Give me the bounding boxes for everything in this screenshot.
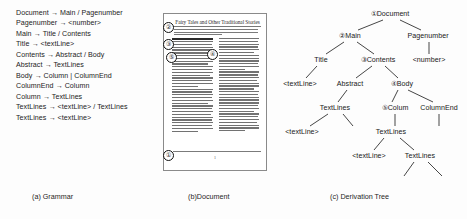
tree-node: ⑤Colum — [382, 104, 409, 112]
document-abstract — [174, 29, 261, 35]
tree-node: <textLine> — [285, 128, 319, 136]
text-line — [219, 66, 260, 67]
text-line — [219, 60, 260, 61]
text-line — [219, 130, 245, 131]
abstract-line — [174, 34, 222, 35]
text-line — [172, 72, 213, 73]
tree-node: TextLines — [376, 128, 406, 136]
text-line — [172, 80, 212, 81]
text-line — [172, 44, 212, 45]
text-line — [172, 128, 213, 129]
text-line — [172, 119, 212, 120]
text-line — [172, 131, 198, 132]
text-line — [219, 41, 259, 42]
text-line — [219, 119, 260, 120]
text-line — [172, 47, 213, 48]
text-line — [219, 83, 260, 84]
text-line — [172, 69, 212, 70]
text-line — [219, 122, 258, 123]
text-line — [172, 111, 213, 112]
tree-node: Title — [314, 56, 327, 64]
abstract-line — [174, 32, 258, 33]
text-line — [219, 94, 259, 95]
text-line — [219, 125, 260, 126]
text-line — [219, 97, 260, 98]
text-line — [172, 125, 212, 126]
tree-node: Abstract — [337, 80, 363, 88]
marker-4-body: ④ — [207, 49, 218, 60]
text-line — [172, 86, 198, 87]
text-line — [172, 66, 213, 67]
title-rule — [173, 26, 261, 27]
text-line — [172, 49, 211, 50]
tree-node: ④Body — [391, 80, 413, 88]
derivation-tree: ①Document②MainPagenumberTitle③Contents<n… — [278, 4, 467, 180]
text-line — [172, 114, 211, 115]
text-line — [172, 38, 213, 40]
text-line — [219, 85, 259, 86]
text-line — [172, 61, 213, 62]
text-line — [172, 105, 213, 106]
text-line — [219, 105, 258, 106]
text-line — [219, 77, 260, 78]
text-line — [172, 91, 212, 92]
text-line — [172, 103, 208, 104]
text-line — [172, 41, 213, 42]
text-line — [219, 127, 259, 128]
tree-node: TextLines — [320, 104, 350, 112]
grammar-rule: Document → Main / Pagenumber — [16, 8, 156, 18]
text-line — [172, 75, 210, 76]
text-line — [172, 89, 213, 90]
document-content: Fairy Tales and Other Traditional Storie… — [169, 19, 261, 165]
text-line — [219, 49, 260, 50]
tree-node: <number> — [413, 56, 446, 64]
grammar-rule: Title → <textLine> — [16, 39, 156, 49]
document-page: Fairy Tales and Other Traditional Storie… — [163, 13, 267, 171]
text-line — [219, 63, 259, 64]
abstract-line — [174, 29, 258, 30]
grammar-rule: Column → TextLines — [16, 92, 156, 102]
text-line — [219, 99, 259, 100]
document-column-right — [219, 38, 262, 133]
text-line — [219, 113, 260, 114]
grammar-rule: Pagenumber → <number> — [16, 18, 156, 28]
text-line — [219, 74, 259, 75]
text-line — [219, 46, 258, 47]
text-line — [219, 88, 255, 89]
text-line — [219, 80, 257, 81]
tree-node: <textLine> — [352, 152, 386, 160]
grammar-rule: Main → Title / Contents — [16, 29, 156, 39]
document-title: Fairy Tales and Other Traditional Storie… — [174, 19, 261, 25]
tree-node: ②Main — [339, 32, 361, 40]
text-line — [219, 116, 259, 117]
grammar-rule: Body → Column | ColumnEnd — [16, 71, 156, 81]
text-line — [219, 38, 260, 39]
text-line — [219, 102, 260, 103]
grammar-rule: Abstract → TextLines — [16, 60, 156, 70]
tree-node: TextLines — [405, 152, 435, 160]
text-line — [172, 63, 208, 64]
text-line — [219, 69, 245, 70]
caption-tree: (c) Derivation Tree — [330, 192, 389, 201]
marker-5-column: ⑤ — [166, 52, 177, 63]
document-page-number: 1 — [169, 155, 261, 160]
text-line — [172, 94, 213, 95]
caption-document: (b)Document — [188, 192, 230, 201]
text-line — [219, 91, 260, 92]
text-line — [219, 108, 260, 109]
text-line — [219, 111, 255, 112]
grammar-rule: TextLines → <textLine> — [16, 113, 156, 123]
text-line — [172, 100, 213, 101]
tree-node: ColumnEnd — [420, 104, 458, 112]
text-line — [172, 58, 212, 59]
tree-node: ①Document — [371, 10, 410, 18]
marker-1-document: ① — [163, 150, 174, 161]
text-line — [219, 58, 259, 59]
text-line — [172, 117, 213, 118]
tree-node: Pagenumber — [407, 32, 448, 40]
text-line — [219, 44, 260, 45]
text-line — [219, 55, 260, 56]
text-line — [172, 77, 213, 78]
text-line — [172, 122, 213, 123]
text-line — [219, 52, 255, 53]
